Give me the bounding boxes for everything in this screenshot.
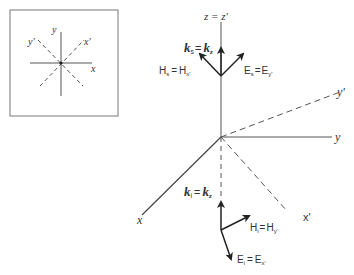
y-prime-axis-label: y': [336, 85, 345, 99]
scattered-wave: ks=kz Hs=Hx' Es=Ey': [159, 40, 272, 77]
es-label: Es=Ey': [244, 65, 272, 77]
inset-label-x-prime: x': [83, 36, 91, 47]
hi-arrow: [221, 216, 249, 230]
es-arrow: [221, 54, 243, 76]
main-axes: z = z' y y' x x': [136, 10, 345, 227]
inset-label-y-prime: y': [27, 36, 35, 47]
inset-origin-dot: [59, 61, 62, 64]
inset-label-y: y: [51, 24, 57, 35]
hs-arrow: [200, 54, 221, 76]
y-prime-axis: [221, 92, 340, 137]
ei-arrow: [221, 230, 231, 259]
inset-label-x: x: [90, 63, 96, 74]
ks-label: ks=kz: [184, 40, 213, 56]
x-axis-label: x: [136, 213, 143, 227]
x-axis: [142, 137, 221, 215]
x-prime-axis-label: x': [303, 211, 311, 223]
hs-label: Hs=Hx': [159, 65, 190, 77]
z-axis-label: z = z': [203, 10, 228, 22]
x-prime-axis: [221, 137, 287, 211]
ei-label: Ei=Ex': [237, 254, 266, 266]
scattering-geometry-diagram: y y' x' x z = z' y y' x x' ks=kz: [0, 0, 354, 275]
inset-coordinate-panel: y y' x' x: [10, 10, 118, 116]
hi-label: Hi=Hy': [250, 222, 278, 234]
incident-wave: ki=kz Hi=Hy' Ei=Ex': [184, 184, 278, 266]
ki-label: ki=kz: [184, 184, 212, 200]
y-axis-label: y: [334, 130, 341, 144]
